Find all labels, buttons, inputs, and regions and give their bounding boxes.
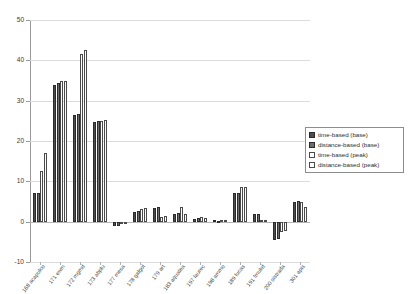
bar: [157, 207, 160, 222]
x-tick-label: 189 lucas: [227, 264, 246, 286]
bar: [53, 85, 56, 222]
plot-area: 50403020100-10: [30, 20, 310, 262]
legend-swatch-icon: [309, 152, 315, 158]
bar: [224, 220, 227, 222]
legend-item[interactable]: distance-based (base): [309, 140, 401, 150]
x-tick-label: 172 mgmd: [66, 264, 87, 288]
bar: [213, 220, 216, 222]
bar: [173, 214, 176, 222]
y-tick-label: 40: [17, 57, 24, 64]
bar: [153, 208, 156, 222]
legend-item-label: time-based (base): [318, 132, 368, 138]
bar: [193, 219, 196, 222]
x-axis-labels: 168 acapulco171 ewm172 mgmd173 abplu177 …: [30, 262, 310, 286]
x-tick-label: 179 art: [151, 264, 166, 281]
bar: [164, 216, 167, 221]
x-tick-label: 171 ewm: [48, 264, 66, 285]
bar: [133, 212, 136, 221]
bar: [257, 214, 260, 222]
bar: [73, 115, 76, 222]
bar: [64, 81, 67, 222]
bar: [113, 222, 116, 226]
bar: [237, 193, 240, 222]
x-tick-label: 168 acapulco: [22, 264, 47, 294]
y-tick-label: 10: [17, 178, 24, 185]
legend-item[interactable]: time-based (base): [309, 130, 401, 140]
bar: [264, 220, 267, 222]
bar: [33, 193, 36, 221]
legend-swatch-icon: [309, 132, 315, 138]
bar: [244, 187, 247, 222]
bar: [233, 193, 236, 221]
bar: [117, 222, 120, 227]
x-tick-label: 200 sistrada: [263, 264, 286, 291]
y-tick-label: -10: [15, 259, 24, 266]
bar: [124, 222, 127, 224]
chart-legend: time-based (base) distance-based (base) …: [305, 127, 404, 173]
bar: [137, 211, 140, 221]
bar: [44, 153, 47, 222]
legend-swatch-icon: [309, 162, 315, 168]
x-tick-label: 301 apis: [289, 264, 306, 284]
y-tick-label: 20: [17, 138, 24, 145]
bar: [184, 214, 187, 222]
bar: [93, 122, 96, 222]
bar: [297, 201, 300, 222]
bar: [97, 121, 100, 221]
bar: [304, 207, 307, 222]
x-tick-label: 173 abplu: [87, 264, 107, 287]
bar: [253, 214, 256, 221]
legend-item-label: time-based (peak): [318, 152, 368, 158]
legend-swatch-icon: [309, 142, 315, 148]
bars-layer: [30, 20, 310, 262]
legend-item-label: distance-based (base): [318, 142, 379, 148]
bar: [177, 213, 180, 222]
bar: [197, 218, 200, 221]
bar: [217, 221, 220, 223]
legend-item-label: distance-based (peak): [318, 162, 379, 168]
bar: [284, 222, 287, 232]
y-tick-label: 50: [17, 17, 24, 24]
bar: [84, 50, 87, 221]
bar: [37, 193, 40, 222]
y-tick-label: 0: [20, 218, 24, 225]
x-tick-label: 177 mesa: [107, 264, 127, 287]
bar: [293, 202, 296, 222]
x-tick-label: 178 galgol: [126, 264, 146, 288]
x-tick-label: 183 aquatea: [163, 264, 187, 292]
bar: [277, 222, 280, 239]
bar: [57, 83, 60, 222]
legend-item[interactable]: time-based (peak): [309, 150, 401, 160]
bar: [273, 222, 276, 240]
bar: [144, 208, 147, 222]
legend-item[interactable]: distance-based (peak): [309, 160, 401, 170]
y-tick-label: 30: [17, 97, 24, 104]
x-tick-label: 197 laurec: [186, 264, 206, 288]
bar: [77, 114, 80, 221]
x-tick-label: 198 ammo: [206, 264, 227, 288]
bar: [104, 120, 107, 222]
bar: [204, 218, 207, 222]
